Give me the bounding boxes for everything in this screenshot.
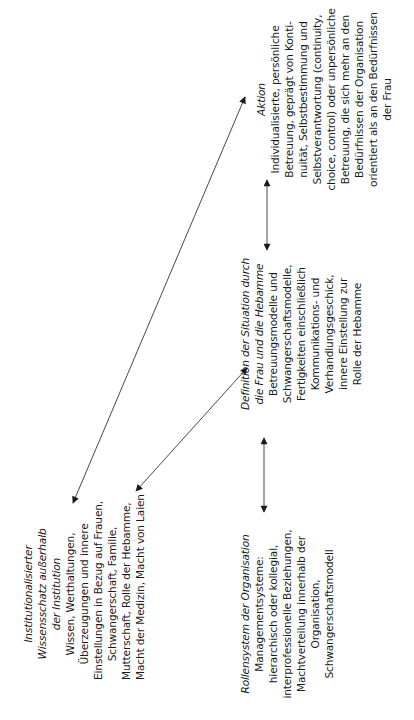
node-title: Wissensschatz außerhalb: [35, 508, 49, 680]
node-text: Machtverteilung innerhalb der: [294, 528, 308, 700]
node-text: hierarchisch oder kollegial,: [266, 528, 280, 700]
node-text: Mutterschaft, Rolle der Hebamme,: [119, 508, 133, 680]
node-title: Definition der Situation durch: [238, 248, 252, 420]
node-title: Institutionalisierter: [21, 508, 35, 680]
arrow-knowledge-definition: [136, 368, 247, 491]
node-text: Überzeugungen und innere: [77, 508, 91, 680]
node-text: innere Einstellung zur: [336, 248, 350, 420]
node-title: Rollensystem der Organisation: [238, 528, 252, 700]
node-title: Aktion: [254, 7, 268, 192]
node-institutional-knowledge: Institutionalisierter Wissensschatz auße…: [21, 508, 147, 680]
node-action: Aktion Individualisierte, persönliche Be…: [254, 7, 394, 192]
node-title: der Institution: [49, 508, 63, 680]
node-text: Verhandlungsgeschick,: [322, 248, 336, 420]
node-text: Schwangerschaft, Familie,: [105, 508, 119, 680]
node-text: Schwangerschaftsmodell: [322, 528, 336, 700]
node-text: Wissen, Werthaltungen,: [63, 508, 77, 680]
node-role-system: Rollensystem der Organisation Management…: [238, 528, 336, 700]
node-text: Selbstverantwortung (continuity,: [310, 7, 324, 192]
node-title: die Frau und die Hebamme: [252, 248, 266, 420]
node-text: Managementsysteme:: [252, 528, 266, 700]
node-text: interprofessionelle Beziehungen,: [280, 528, 294, 700]
node-text: choice, control) oder unpersönliche: [324, 7, 338, 192]
node-text: Schwangerschaftsmodelle,: [280, 248, 294, 420]
node-text: der Frau: [380, 7, 394, 192]
node-text: nuität, Selbstbestimmung und: [296, 7, 310, 192]
node-text: Betreuung, die sich mehr an den: [338, 7, 352, 192]
node-text: orientiert als an den Bedürfnissen: [366, 7, 380, 192]
node-text: Macht der Medizin, Macht von Laien: [133, 508, 147, 680]
diagram-stage: Institutionalisierter Wissensschatz auße…: [0, 0, 414, 720]
node-text: Einstellungen in Bezug auf Frauen,: [91, 508, 105, 680]
node-definition: Definition der Situation durch die Frau …: [238, 248, 364, 420]
node-text: Organisation,: [308, 528, 322, 700]
node-text: Betreuung, geprägt von Konti-: [282, 7, 296, 192]
node-text: Rolle der Hebamme: [350, 248, 364, 420]
node-text: Bedürfnissen der Organisation: [352, 7, 366, 192]
node-text: Betreuungsmodelle und: [266, 248, 280, 420]
node-text: Kommunikations- und: [308, 248, 322, 420]
node-text: Fertigkeiten einschließlich: [294, 248, 308, 420]
arrow-knowledge-action: [73, 97, 245, 503]
node-text: Individualisierte, persönliche: [268, 7, 282, 192]
